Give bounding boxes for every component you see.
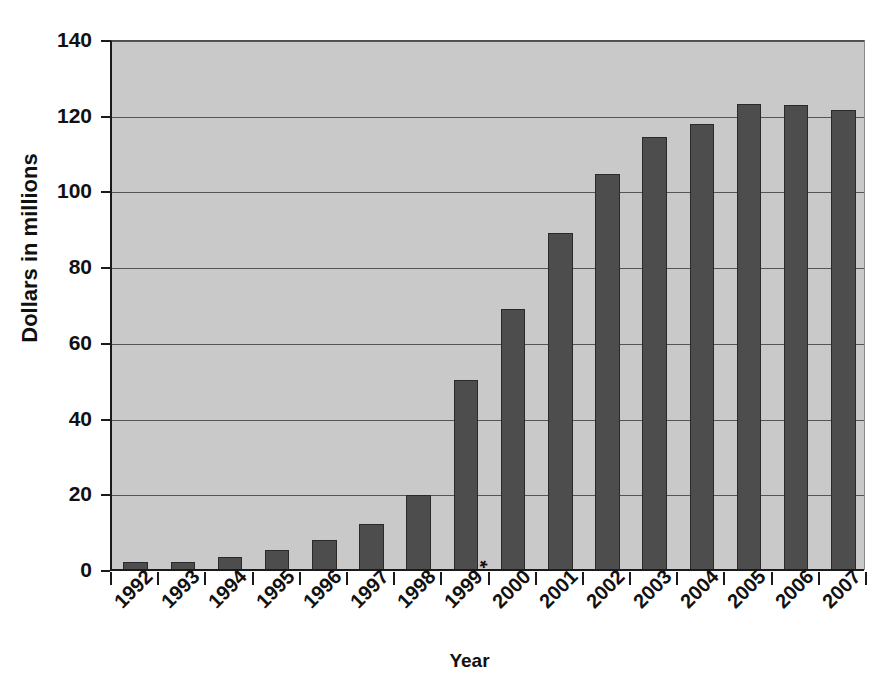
x-axis-tick-label: 1997 (346, 565, 394, 613)
y-axis-tick-label: 100 (30, 180, 92, 201)
x-axis-tick-mark (110, 572, 112, 585)
bar (784, 105, 809, 570)
x-axis-tick-label: 2005 (723, 565, 771, 613)
x-axis-tick-label: 1998 (393, 565, 441, 613)
x-axis-tick-label: 1995 (251, 565, 299, 613)
bar (595, 174, 620, 570)
x-axis-tick-mark (582, 572, 584, 585)
y-axis-title: Dollars in millions (17, 133, 43, 363)
chart-figure: Dollars in millions 020406080100120140 1… (0, 0, 891, 700)
y-axis-tick-mark (101, 40, 110, 42)
y-axis-tick-mark (101, 191, 110, 193)
x-axis-tick-label: 1996 (299, 565, 347, 613)
x-axis-tick-label: 1993 (157, 565, 205, 613)
bar (312, 540, 337, 570)
y-axis-tick-label: 120 (30, 105, 92, 126)
x-axis-tick-mark (346, 572, 348, 585)
plot-area (110, 40, 865, 570)
x-axis-tick-mark (771, 572, 773, 585)
x-axis-tick-mark (865, 572, 867, 585)
x-axis-tick-label: 2007 (818, 565, 866, 613)
bar (501, 309, 526, 570)
bar (548, 233, 573, 570)
bar (831, 110, 856, 570)
x-axis-tick-mark (629, 572, 631, 585)
y-axis-tick-label: 60 (30, 332, 92, 353)
y-axis-tick-label: 20 (30, 483, 92, 504)
y-axis-tick-mark (101, 419, 110, 421)
x-axis-tick-mark (818, 572, 820, 585)
x-axis-tick-label: 1994 (204, 565, 252, 613)
x-axis-tick-mark (676, 572, 678, 585)
y-axis-tick-mark (101, 267, 110, 269)
bar (454, 380, 479, 570)
y-axis-tick-label: 140 (30, 29, 92, 50)
x-axis-tick-mark (535, 572, 537, 585)
x-axis-title: Year (24, 650, 891, 672)
x-axis-tick-mark (393, 572, 395, 585)
gridline (112, 41, 864, 42)
x-axis-tick-mark (204, 572, 206, 585)
bar (642, 137, 667, 570)
bar (406, 495, 431, 570)
x-axis-tick-label: 2004 (676, 565, 724, 613)
bar (359, 524, 384, 570)
x-axis-tick-label: 2002 (582, 565, 630, 613)
y-axis-tick-mark (101, 570, 110, 572)
x-axis-tick-label: 2006 (770, 565, 818, 613)
x-axis-tick-label: 2003 (629, 565, 677, 613)
x-axis-tick-label: 2001 (534, 565, 582, 613)
x-axis-tick-mark (440, 572, 442, 585)
y-axis-tick-label: 0 (30, 559, 92, 580)
y-axis-tick-mark (101, 116, 110, 118)
y-axis-tick-label: 40 (30, 408, 92, 429)
bar (737, 104, 762, 570)
x-axis-tick-mark (723, 572, 725, 585)
x-axis-tick-label: 1992 (110, 565, 158, 613)
x-axis-tick-mark (157, 572, 159, 585)
x-axis-tick-mark (252, 572, 254, 585)
y-axis-tick-label: 80 (30, 256, 92, 277)
bar (690, 124, 715, 570)
x-axis-tick-mark (299, 572, 301, 585)
y-axis-tick-mark (101, 494, 110, 496)
y-axis-tick-mark (101, 343, 110, 345)
